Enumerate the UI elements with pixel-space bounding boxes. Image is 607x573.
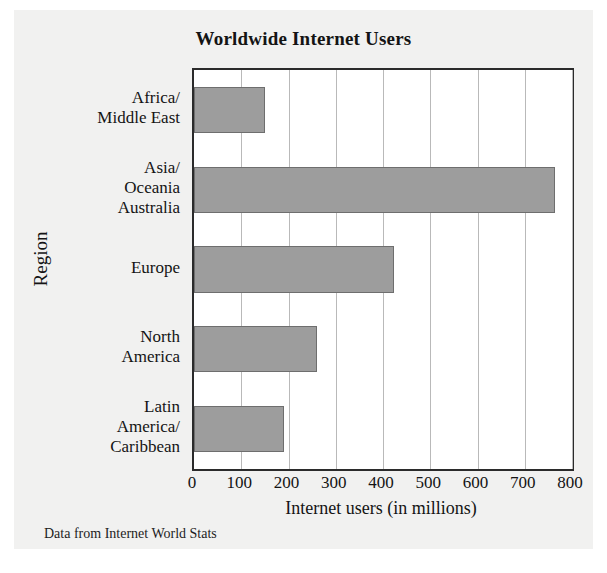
y-axis-tick-label-line: Oceania [30, 178, 180, 198]
y-axis-tick-label-line: Caribbean [30, 437, 180, 457]
bar [194, 87, 265, 133]
bar-row [194, 87, 572, 133]
source-caption: Data from Internet World Stats [44, 526, 217, 542]
bar-row [194, 167, 572, 213]
page-title: Worldwide Internet Users [14, 28, 593, 50]
y-axis-tick-label-line: Latin [30, 397, 180, 417]
chart-figure: Worldwide Internet Users Region Africa/M… [14, 10, 593, 549]
y-axis-tick-label: NorthAmerica [30, 327, 180, 367]
bar [194, 167, 555, 213]
bar [194, 246, 394, 292]
plot-area [192, 68, 574, 471]
y-axis-tick-label: Africa/Middle East [30, 88, 180, 128]
y-axis-tick-label-line: Middle East [30, 108, 180, 128]
bar [194, 326, 317, 372]
bar-row [194, 246, 572, 292]
x-axis-title: Internet users (in millions) [192, 498, 570, 519]
y-axis-tick-label-line: Europe [30, 258, 180, 278]
gridline [572, 70, 573, 469]
y-axis-tick-label: Europe [30, 258, 180, 278]
y-axis-tick-label-line: Africa/ [30, 88, 180, 108]
y-axis-tick-label-line: America/ [30, 417, 180, 437]
y-axis-tick-label-line: North [30, 327, 180, 347]
y-axis-tick-label-line: Australia [30, 198, 180, 218]
y-axis-tick-label-line: America [30, 347, 180, 367]
bar-row [194, 406, 572, 452]
y-axis-tick-label: LatinAmerica/Caribbean [30, 397, 180, 457]
x-axis-tick-label: 800 [540, 473, 600, 493]
y-axis-tick-label: Asia/OceaniaAustralia [30, 158, 180, 218]
bar [194, 406, 284, 452]
y-axis-tick-label-line: Asia/ [30, 158, 180, 178]
bar-row [194, 326, 572, 372]
